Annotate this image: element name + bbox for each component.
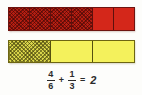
thirds-cell-1 [9,41,51,62]
second-fraction-denominator: 3 [68,82,75,91]
fraction-worksheet: 4 6 + 1 3 = 2 [0,0,142,95]
second-fraction: 1 3 [68,70,76,91]
thirds-cell-3 [93,41,134,62]
fraction-equation: 4 6 + 1 3 = 2 [0,66,142,95]
sixths-fraction-bar [8,7,135,31]
plus-operator: + [59,76,64,85]
sixths-cell-1 [9,8,30,30]
sixths-cell-2 [30,8,51,30]
equals-operator: = [80,76,85,85]
first-fraction: 4 6 [47,70,55,91]
sixths-cell-4 [72,8,93,30]
first-fraction-denominator: 6 [47,82,54,91]
equation-result: 2 [90,75,96,86]
second-fraction-numerator: 1 [68,70,75,79]
sixths-cell-3 [51,8,72,30]
thirds-fraction-bar [8,40,135,63]
sixths-cell-6 [114,8,134,30]
sixths-cell-5 [93,8,114,30]
first-fraction-numerator: 4 [47,70,54,79]
thirds-cell-2 [51,41,93,62]
